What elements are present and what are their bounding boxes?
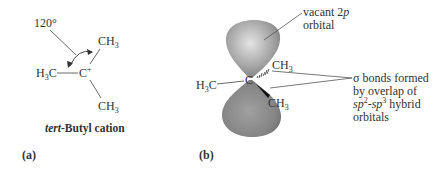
- panel-b-label: (b): [199, 148, 214, 162]
- bond-bottom: [90, 80, 101, 98]
- sigma-label-line1: σ bonds formed: [353, 71, 429, 85]
- central-carbon: C+: [79, 65, 92, 80]
- ch3-top: CH3: [98, 34, 119, 50]
- tert-butyl-cation-figure: 120° H3C C+ CH3 CH3 tert-Butyl cation (a…: [0, 0, 439, 174]
- sigma-label-line4: orbitals: [353, 110, 389, 124]
- angle-label: 120°: [34, 16, 57, 30]
- ch3-bottom: CH3: [98, 99, 119, 115]
- h3c-group: H3C: [36, 66, 57, 82]
- h3c-group-b: H3C: [196, 78, 217, 94]
- panel-a-label: (a): [22, 148, 36, 162]
- orbital-label-line1: vacant 2p: [303, 5, 349, 19]
- bond-left-b: [217, 81, 244, 84]
- panel-b: H3C C CH3 CH3 vacant 2p orbital σ bonds: [196, 5, 429, 162]
- sigma-label-line3: sp2-sp3 hybrid: [353, 96, 421, 111]
- orbital-label-line2: orbital: [303, 18, 335, 32]
- ch3-lower-right: CH3: [268, 96, 289, 112]
- angle-pointer-line: [50, 30, 76, 55]
- sigma-pointer-line-lower: [270, 78, 352, 88]
- central-carbon-b: C: [245, 73, 253, 87]
- caption-tert-butyl-cation: tert-Butyl cation: [45, 122, 125, 135]
- panel-a: 120° H3C C+ CH3 CH3 tert-Butyl cation (a…: [22, 16, 125, 162]
- sigma-pointer-line-upper: [272, 71, 352, 78]
- arrow-head-right-icon: [87, 49, 93, 55]
